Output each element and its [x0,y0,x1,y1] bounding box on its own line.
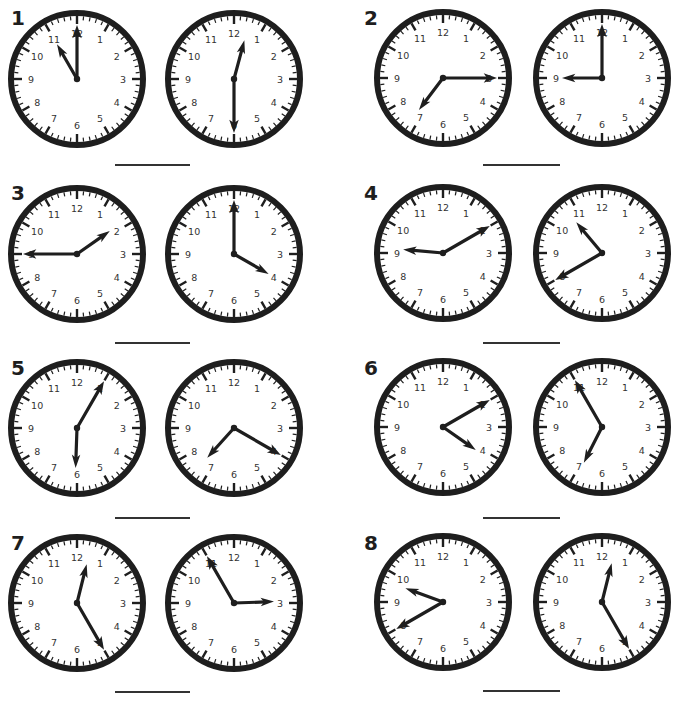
tick-mark [15,66,19,67]
clock-center [440,75,446,81]
clock-numeral: 8 [400,445,406,456]
answer-line[interactable] [115,517,190,519]
clock-numeral: 11 [573,208,585,219]
clock-numeral: 11 [573,33,585,44]
clock-numeral: 12 [228,28,240,39]
tick-mark [135,440,139,441]
clock-numeral: 3 [645,597,651,608]
clock-numeral: 12 [71,203,83,214]
clock-face: 121234567891011 [11,188,143,320]
tick-mark [660,439,664,440]
clock-numeral: 9 [553,73,559,84]
answer-line[interactable] [115,691,190,693]
tick-mark [501,240,505,241]
clock-numeral: 9 [553,248,559,259]
clock-face: 121234567891011 [168,13,300,145]
clock-center [440,250,446,256]
tick-mark [172,415,176,416]
answer-line[interactable] [483,517,560,519]
answer-line[interactable] [115,164,190,166]
clock-numeral: 7 [417,287,423,298]
clock-numeral: 8 [34,446,40,457]
clock-numeral: 8 [34,97,40,108]
clock-numeral: 8 [191,97,197,108]
clock-numeral: 11 [414,208,426,219]
tick-mark [614,485,615,489]
tick-mark [172,590,176,591]
clock-numeral: 11 [414,382,426,393]
clock-numeral: 10 [397,574,409,585]
clock-numeral: 12 [596,551,608,562]
clock-numeral: 11 [414,33,426,44]
tick-mark [246,137,247,141]
tick-mark [614,660,615,664]
clock-numeral: 3 [486,597,492,608]
clock-numeral: 9 [28,423,34,434]
tick-mark [64,137,65,141]
clock-numeral: 10 [31,400,43,411]
clock-numeral: 7 [51,637,57,648]
clock-numeral: 12 [437,202,449,213]
clock-numeral: 10 [188,226,200,237]
answer-line[interactable] [115,342,190,344]
clock-numeral: 7 [576,636,582,647]
tick-mark [172,66,176,67]
clock-numeral: 8 [34,621,40,632]
clock-numeral: 2 [639,225,645,236]
tick-mark [540,265,544,266]
clock-numeral: 3 [486,422,492,433]
tick-mark [501,589,505,590]
clock-numeral: 5 [254,637,260,648]
answer-line[interactable] [483,690,560,692]
tick-mark [15,91,19,92]
clock-numeral: 10 [188,400,200,411]
clock-numeral: 6 [231,644,237,655]
tick-mark [89,192,90,196]
clock-numeral: 9 [185,598,191,609]
clock-numeral: 7 [51,462,57,473]
tick-mark [292,91,296,92]
clock-numeral: 10 [556,50,568,61]
clock-numeral: 4 [480,620,486,631]
clock-numeral: 10 [31,51,43,62]
tick-mark [64,366,65,370]
tick-mark [64,17,65,21]
clock-numeral: 6 [231,295,237,306]
clock-numeral: 5 [254,113,260,124]
tick-mark [246,312,247,316]
clock-numeral: 9 [28,598,34,609]
answer-line[interactable] [483,342,560,344]
tick-mark [540,589,544,590]
tick-mark [15,440,19,441]
tick-mark [660,265,664,266]
clock-numeral: 2 [639,399,645,410]
clock-numeral: 2 [271,400,277,411]
tick-mark [381,439,385,440]
clock-numeral: 3 [277,249,283,260]
clock-numeral: 1 [622,208,628,219]
clock-numeral: 7 [51,113,57,124]
clock-numeral: 11 [48,558,60,569]
tick-mark [292,241,296,242]
clock-numeral: 10 [397,225,409,236]
answer-line[interactable] [483,164,560,166]
tick-mark [455,365,456,369]
clock-numeral: 8 [191,272,197,283]
tick-mark [221,366,222,370]
clock-numeral: 4 [480,96,486,107]
tick-mark [89,661,90,665]
tick-mark [455,311,456,315]
clock-face: 121234567891011 [536,187,668,319]
clock-face: 121234567891011 [377,12,509,144]
tick-mark [430,485,431,489]
tick-mark [589,191,590,195]
clock-numeral: 3 [120,598,126,609]
tick-mark [540,439,544,440]
clock-numeral: 1 [622,557,628,568]
clock-numeral: 5 [622,287,628,298]
clocks-canvas: 1212345678910111212345678910111212345678… [0,0,682,705]
tick-mark [501,439,505,440]
tick-mark [89,17,90,21]
clock-numeral: 4 [114,272,120,283]
clock-numeral: 1 [97,34,103,45]
